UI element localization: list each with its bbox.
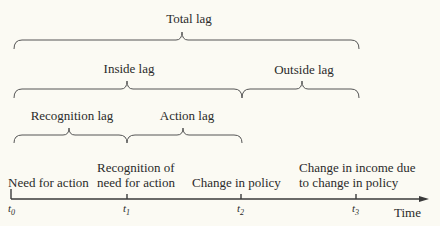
tick-label-t2: t2 — [237, 202, 244, 217]
event-need-for-action: Need for action — [8, 176, 89, 190]
total-lag-bracket — [14, 32, 359, 49]
total-lag-label: Total lag — [166, 12, 212, 26]
event-income-change-line2: to change in policy — [299, 176, 398, 190]
action-lag-label: Action lag — [160, 109, 215, 123]
event-recognition-line1: Recognition of — [97, 161, 175, 175]
recognition-lag-bracket — [14, 128, 127, 143]
tick-label-t3: t3 — [352, 202, 359, 217]
action-lag-bracket — [127, 128, 242, 143]
tick-label-t0: t0 — [8, 202, 15, 217]
recognition-lag-label: Recognition lag — [31, 109, 114, 123]
outside-lag-bracket — [242, 81, 359, 98]
tick-label-t1: t1 — [123, 202, 130, 217]
event-change-in-policy: Change in policy — [192, 176, 281, 190]
event-recognition-line2: need for action — [97, 176, 175, 190]
outside-lag-label: Outside lag — [274, 63, 334, 77]
event-income-change-line1: Change in income due — [299, 161, 416, 175]
axis-arrowhead-icon — [419, 196, 429, 202]
inside-lag-label: Inside lag — [104, 62, 155, 76]
axis-label-time: Time — [394, 206, 421, 220]
inside-lag-bracket — [14, 81, 242, 98]
